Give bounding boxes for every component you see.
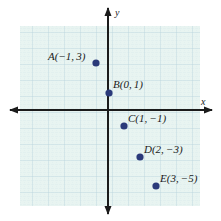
data-point-b bbox=[105, 89, 112, 96]
data-point-d bbox=[136, 153, 143, 160]
point-label-e: E(3, −5) bbox=[159, 172, 198, 185]
coordinate-plane-figure: x y A(−1, 3) B(0, 1) C(1, −1) D(2, −3) E… bbox=[0, 0, 221, 221]
coordinate-plane-svg: x y A(−1, 3) B(0, 1) C(1, −1) D(2, −3) E… bbox=[0, 0, 221, 221]
point-label-c: C(1, −1) bbox=[128, 112, 166, 125]
point-label-b: B(0, 1) bbox=[113, 78, 143, 91]
point-label-a: A(−1, 3) bbox=[47, 50, 86, 63]
data-point-a bbox=[92, 59, 99, 66]
data-point-e bbox=[152, 182, 159, 189]
point-label-d: D(2, −3) bbox=[143, 143, 183, 156]
x-axis-label: x bbox=[200, 96, 206, 107]
y-axis-label: y bbox=[114, 7, 120, 18]
data-point-c bbox=[120, 122, 127, 129]
